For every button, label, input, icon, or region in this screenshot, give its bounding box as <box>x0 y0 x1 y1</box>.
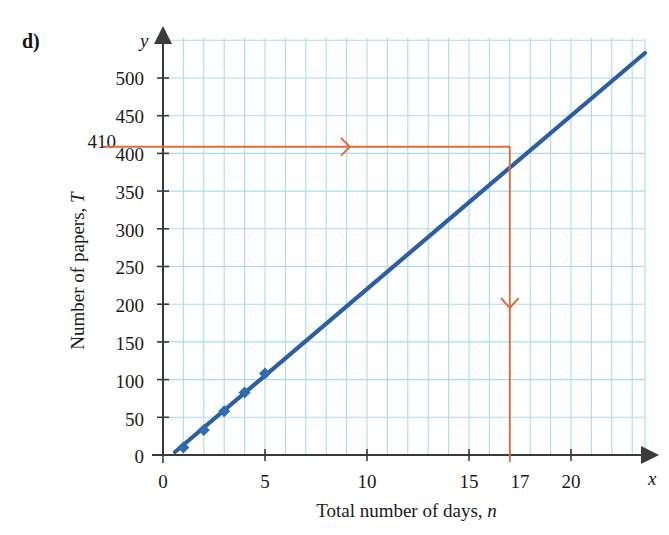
axis-lines <box>152 42 643 455</box>
grid-lines <box>163 38 645 455</box>
chart-canvas <box>0 0 669 535</box>
graph-figure: d) Number of papers, T Total number of d… <box>0 0 669 535</box>
